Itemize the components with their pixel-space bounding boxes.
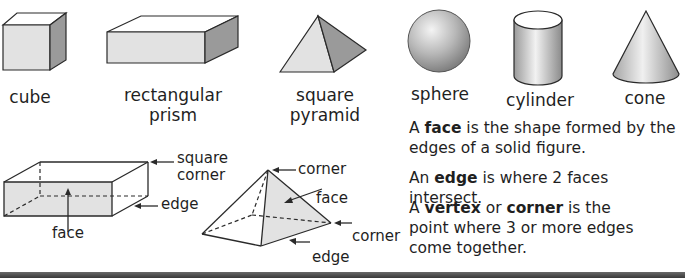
bottom-divider-bar: [0, 272, 685, 278]
definition-face-pre: A: [409, 119, 425, 137]
square-pyramid-icon: [278, 15, 368, 75]
definition-vertex-line2: point where 3 or more edges: [409, 218, 685, 238]
definition-vertex-term1: vertex: [425, 199, 481, 217]
square-pyramid-label-line1: square: [285, 85, 365, 105]
sphere-icon: [406, 8, 472, 74]
rectangular-prism-label-line2: prism: [118, 105, 228, 125]
cylinder-label: cylinder: [500, 90, 580, 110]
prism-face-annotation: face: [52, 225, 84, 242]
definition-edge-pre: An: [409, 169, 434, 187]
rectangular-prism-icon: [105, 15, 240, 85]
definition-vertex: A vertex or corner is the point where 3 …: [409, 198, 685, 258]
pyramid-edge-annotation: edge: [312, 249, 350, 266]
cube-icon: [0, 10, 70, 80]
definition-vertex-post: is the: [563, 199, 611, 217]
definition-edge-term: edge: [434, 169, 477, 187]
sphere-label: sphere: [405, 84, 475, 104]
pyramid-corner-top-annotation: corner: [298, 161, 346, 178]
prism-diagram-icon: [2, 158, 162, 228]
rectangular-prism-label-line1: rectangular: [118, 85, 228, 105]
cone-label: cone: [615, 88, 675, 108]
pyramid-face-annotation: face: [316, 190, 348, 207]
definition-face: A face is the shape formed by the edges …: [409, 118, 685, 158]
definition-vertex-pre: A: [409, 199, 425, 217]
definition-face-line2: edges of a solid figure.: [409, 138, 685, 158]
definition-vertex-mid: or: [481, 199, 507, 217]
definition-face-post: is the shape formed by the: [461, 119, 675, 137]
definition-vertex-term2: corner: [506, 199, 563, 217]
rectangular-prism-label: rectangular prism: [118, 85, 228, 125]
pyramid-corner-right-annotation: corner: [352, 228, 400, 245]
square-pyramid-label: square pyramid: [285, 85, 365, 125]
cone-icon: [611, 8, 681, 88]
square-pyramid-label-line2: pyramid: [285, 105, 365, 125]
cylinder-icon: [512, 8, 564, 88]
definition-face-term: face: [425, 119, 462, 137]
definition-vertex-line3: come together.: [409, 238, 685, 258]
cube-label: cube: [5, 87, 55, 107]
prism-edge-annotation: edge: [161, 196, 199, 213]
